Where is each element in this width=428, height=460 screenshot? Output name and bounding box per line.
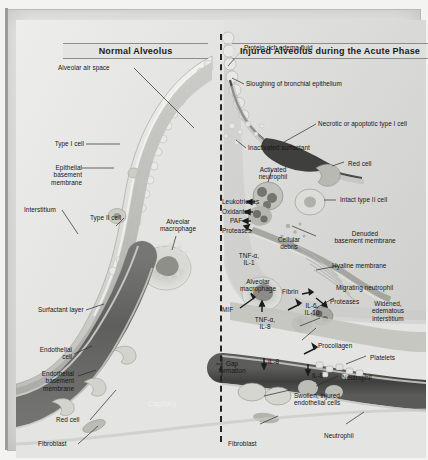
label-alveolar-macrophage-right: Alveolar macrophage <box>230 278 286 293</box>
label-red-cell-left: Red cell <box>56 416 80 423</box>
label-tnf-alpha-il-1: TNF-α, IL-1 <box>232 252 266 267</box>
label-fibroblast-right: Fibroblast <box>228 440 257 447</box>
label-protein-rich-edema-fluid: Protein-rich edema fluid <box>244 44 313 51</box>
label-fibroblast-left: Fibroblast <box>38 440 67 447</box>
label-red-cell-right: Red cell <box>348 160 372 167</box>
figure-frame: Normal Alveolus Injured Alveolus during … <box>7 9 421 451</box>
label-fibrin: Fibrin <box>282 288 298 295</box>
label-activated-neutrophil: Activated neutrophil <box>246 166 300 181</box>
panel-title-normal: Normal Alveolus <box>63 43 208 59</box>
label-type-ii-cell: Type II cell <box>90 214 121 221</box>
label-gap-formation: Gap formation <box>212 360 252 375</box>
label-mif: MIF <box>222 306 233 313</box>
label-proteases-left: Proteases <box>222 227 251 234</box>
label-sloughing-bronchial-epithelium: Sloughing of bronchial epithelium <box>246 80 342 87</box>
label-il-8-b: IL-8 <box>312 372 323 379</box>
label-alveolar-air-space: Alveolar air space <box>58 64 110 71</box>
label-neutrophil-right: Neutrophil <box>342 374 372 381</box>
label-tnf-alpha-il-8: TNF-α, IL-8 <box>248 316 282 331</box>
alveolus-figure: Normal Alveolus Injured Alveolus during … <box>0 0 428 460</box>
label-platelets: Platelets <box>370 354 395 361</box>
label-intact-type-ii-cell: Intact type II cell <box>340 196 387 203</box>
label-inactivated-surfactant: Inactivated surfactant <box>248 144 310 151</box>
label-paf: PAF <box>230 217 242 224</box>
label-necrotic-apoptotic-type-i-cell: Necrotic or apoptotic type I cell <box>318 120 407 127</box>
label-surfactant-layer: Surfactant layer <box>38 306 84 313</box>
label-type-i-cell: Type I cell <box>34 140 84 147</box>
label-capillary: Capillary <box>148 400 176 407</box>
label-il-6-il-10: IL-6, IL-10 <box>298 302 326 317</box>
panel-divider <box>220 34 222 442</box>
label-neutrophil-bottom: Neutrophil <box>324 432 354 439</box>
label-widened-edematous-interstitium: Widened, edematous interstitium <box>360 300 416 322</box>
label-alveolar-macrophage-left: Alveolar macrophage <box>150 218 206 233</box>
label-endothelial-cell: Endothelial cell <box>20 346 72 361</box>
label-epithelial-basement-membrane: Epithelial basement membrane <box>26 164 82 186</box>
label-cellular-debris: Cellular debris <box>268 236 310 251</box>
label-procollagen: Procollagen <box>318 342 352 349</box>
label-endothelial-basement-membrane: Endothelial basement membrane <box>18 370 74 392</box>
label-hyaline-membrane: Hyaline membrane <box>332 262 386 269</box>
label-leukotrienes: Leukotrienes <box>222 198 259 205</box>
label-denuded-basement-membrane: Denuded basement membrane <box>318 230 412 245</box>
label-oxidants: Oxidants <box>222 208 248 215</box>
illustration-canvas: Normal Alveolus Injured Alveolus during … <box>16 20 426 458</box>
label-proteases-right: Proteases <box>330 298 359 305</box>
label-interstitium: Interstitium <box>24 206 56 213</box>
label-migrating-neutrophil: Migrating neutrophil <box>336 284 393 291</box>
label-swollen-injured-endothelial-cells: Swollen, injured endothelial cells <box>294 392 340 407</box>
label-il-8-a: IL-8 <box>268 358 279 365</box>
